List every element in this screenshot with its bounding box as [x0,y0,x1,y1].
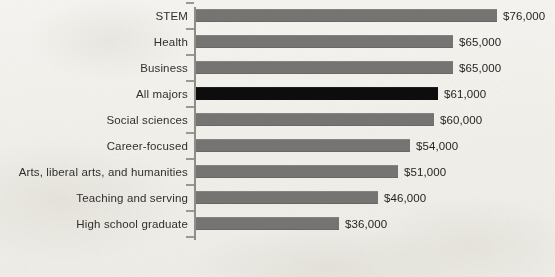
bar-value-label: $36,000 [345,218,387,230]
bar [196,35,453,48]
category-label: Arts, liberal arts, and humanities [19,166,188,178]
bar-value-label: $60,000 [440,114,482,126]
bar-value-label: $76,000 [503,10,545,22]
category-label: Business [140,62,188,74]
bar-value-label: $46,000 [384,192,426,204]
axis-tick [186,210,194,212]
category-label: High school graduate [76,218,188,230]
axis-tick [186,106,194,108]
bar-value-label: $54,000 [416,140,458,152]
bar [196,113,434,126]
category-label: STEM [155,10,188,22]
axis-tick [186,132,194,134]
bar [196,217,339,230]
category-label: Career-focused [107,140,188,152]
axis-tick [186,158,194,160]
axis-tick [186,80,194,82]
category-label: Health [154,36,188,48]
bar [196,61,453,74]
bar-value-label: $65,000 [459,36,501,48]
bar-value-label: $61,000 [444,88,486,100]
bar [196,87,438,100]
category-label: Teaching and serving [76,192,188,204]
bar-value-label: $65,000 [459,62,501,74]
bar [196,9,497,22]
axis-tick [186,236,194,238]
bar [196,165,398,178]
category-label: All majors [136,88,188,100]
category-label: Social sciences [106,114,188,126]
axis-tick [186,2,194,4]
bar-value-label: $51,000 [404,166,446,178]
axis-tick [186,28,194,30]
bar [196,191,378,204]
chart-figure: STEM$76,000Health$65,000Business$65,000A… [0,0,555,277]
axis-tick [186,54,194,56]
bar [196,139,410,152]
axis-tick [186,184,194,186]
